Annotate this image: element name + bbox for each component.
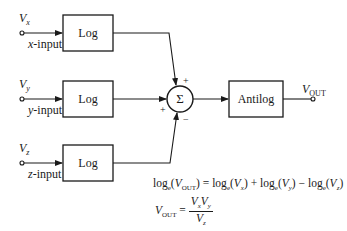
z-input-terminal [20, 161, 24, 165]
vout-fraction: VxVy Vz [189, 196, 213, 227]
vx-label: Vx [19, 12, 30, 27]
vout-label: VOUT [302, 83, 326, 98]
sign-bottom-minus: − [183, 115, 189, 125]
sign-top-plus: + [183, 76, 189, 86]
x-input-label: x-input [28, 38, 62, 50]
y-input-terminal [20, 97, 24, 101]
log-block-x: Log [63, 27, 113, 39]
x-input-terminal [20, 31, 24, 35]
log-block-z: Log [63, 157, 113, 169]
y-input-label: y-input [28, 104, 62, 116]
vz-label: Vz [19, 142, 29, 157]
z-input-label: z-input [28, 168, 61, 180]
log-antilog-multiplier-divider-diagram: Vx x-input Vy y-input Vz z-input Log Log… [0, 0, 347, 231]
summer-sigma: Σ [167, 92, 193, 105]
log-block-y: Log [63, 93, 113, 105]
antilog-block: Antilog [229, 93, 283, 105]
sign-left-plus: + [160, 105, 166, 115]
equation-vout-result: VOUT = VxVy Vz [155, 196, 213, 227]
equation-log-relation: loge(VOUT) = loge(Vx) + loge(Vy) − loge(… [153, 178, 343, 192]
vy-label: Vy [19, 78, 30, 93]
